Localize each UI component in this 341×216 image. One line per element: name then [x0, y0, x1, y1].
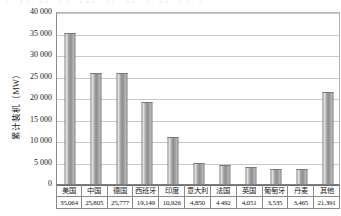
y-tick-label: 25 000 — [30, 73, 52, 81]
data-table-value-cell: 21,391 — [314, 197, 340, 209]
bar[interactable] — [142, 102, 153, 184]
bar-slot — [109, 13, 135, 184]
y-axis-tick-labels: 05 00010 00015 00020 00025 00030 00035 0… — [14, 12, 54, 184]
bar-slot — [57, 13, 83, 184]
bar-chart-figure: 累计装机（MW） 05 00010 00015 00020 00025 0003… — [0, 7, 336, 216]
top-caption-text: 。 。。 。。 。。 ，。。 。。 。。 。 。。 。。 。 — [6, 0, 209, 4]
y-tick-label: 35 000 — [30, 30, 52, 38]
bar[interactable] — [271, 169, 282, 184]
y-tick-label: 20 000 — [30, 94, 52, 102]
bar-slot — [238, 13, 264, 184]
data-table-value-row: 35,06425,80525,77719,14910,9264,8504 492… — [56, 197, 340, 209]
bar-slot — [264, 13, 290, 184]
bar-slot — [83, 13, 109, 184]
bar-slot — [160, 13, 186, 184]
data-table-value-cell: 25,777 — [108, 197, 134, 209]
bar-series — [57, 13, 339, 184]
y-tick-label: 0 — [48, 180, 52, 188]
data-table-value-cell: 4 492 — [211, 197, 237, 209]
plot-area — [56, 12, 340, 184]
data-table-value-cell: 19,149 — [133, 197, 159, 209]
data-table-category-cell: 西班牙 — [133, 185, 159, 197]
data-table-category-cell: 丹麦 — [288, 185, 314, 197]
data-table-category-cell: 法国 — [211, 185, 237, 197]
y-tick-label: 40 000 — [30, 8, 52, 16]
bar[interactable] — [323, 92, 334, 184]
data-table-value-cell: 35,064 — [56, 197, 82, 209]
bar[interactable] — [219, 165, 230, 184]
bar[interactable] — [245, 167, 256, 184]
bar-slot — [289, 13, 315, 184]
y-tick-label: 5 000 — [34, 159, 52, 167]
bar[interactable] — [297, 169, 308, 184]
bar[interactable] — [64, 33, 75, 184]
y-tick-label: 15 000 — [30, 116, 52, 124]
bar[interactable] — [193, 163, 204, 184]
data-table-value-cell: 4,850 — [185, 197, 211, 209]
bar-slot — [315, 13, 341, 184]
bar[interactable] — [90, 73, 101, 184]
data-table-category-cell: 印度 — [159, 185, 185, 197]
data-table-value-cell: 10,926 — [159, 197, 185, 209]
data-table-category-cell: 葡萄牙 — [263, 185, 289, 197]
data-table-category-row: 美国中国德国西班牙印度意大利法国英国葡萄牙丹麦其他 — [56, 185, 340, 197]
y-tick-label: 10 000 — [30, 137, 52, 145]
bar-slot — [186, 13, 212, 184]
bar-slot — [212, 13, 238, 184]
data-table-category-cell: 德国 — [108, 185, 134, 197]
data-table-category-cell: 其他 — [314, 185, 340, 197]
bar[interactable] — [116, 73, 127, 184]
data-table: 美国中国德国西班牙印度意大利法国英国葡萄牙丹麦其他 35,06425,80525… — [56, 184, 340, 209]
top-caption-strip: 。 。。 。。 。。 ，。。 。。 。。 。 。。 。。 。 — [0, 0, 336, 7]
bar[interactable] — [168, 137, 179, 184]
data-table-category-cell: 英国 — [237, 185, 263, 197]
data-table-category-cell: 中国 — [82, 185, 108, 197]
data-table-category-cell: 意大利 — [185, 185, 211, 197]
y-tick-label: 30 000 — [30, 51, 52, 59]
data-table-value-cell: 25,805 — [82, 197, 108, 209]
bar-slot — [134, 13, 160, 184]
data-table-category-cell: 美国 — [56, 185, 82, 197]
data-table-value-cell: 3,535 — [263, 197, 289, 209]
data-table-value-cell: 4,051 — [237, 197, 263, 209]
data-table-value-cell: 3,465 — [288, 197, 314, 209]
